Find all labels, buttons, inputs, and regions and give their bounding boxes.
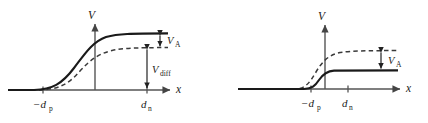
left-xtick-label-dn-base: d [141, 98, 147, 110]
right-y-axis-label: V [318, 10, 327, 22]
left-VA-label-base: V [167, 35, 175, 46]
left-dashed-curve [8, 48, 168, 90]
figure-container: V A V diff V x −d p d n V A V x [0, 0, 428, 123]
left-xtick-label-dn-sub: n [148, 104, 152, 113]
right-xtick-label-dp-base: −d [301, 97, 314, 109]
left-VA-label-sub: A [175, 40, 181, 49]
left-xtick-label-dp-base: −d [33, 98, 46, 110]
left-Vdiff-label-base: V [152, 64, 160, 75]
right-VA-label-sub: A [396, 60, 402, 69]
right-solid-curve [238, 70, 398, 89]
left-xtick-label-dp-sub: p [49, 104, 53, 113]
right-x-axis-label: x [405, 82, 412, 94]
right-xtick-label-dn-base: d [342, 97, 348, 109]
left-y-axis-label: V [88, 9, 97, 21]
left-x-axis-label: x [175, 83, 182, 95]
left-solid-curve [8, 33, 168, 90]
left-panel: V A V diff V x −d p d n [8, 9, 182, 113]
pn-junction-diagram-svg: V A V diff V x −d p d n V A V x [0, 0, 428, 123]
right-panel: V A V x −d p d n [238, 10, 412, 112]
right-xtick-label-dn-sub: n [349, 103, 353, 112]
right-xtick-label-dp-sub: p [317, 103, 321, 112]
right-VA-label-base: V [388, 55, 396, 66]
left-Vdiff-label-sub: diff [160, 69, 171, 78]
